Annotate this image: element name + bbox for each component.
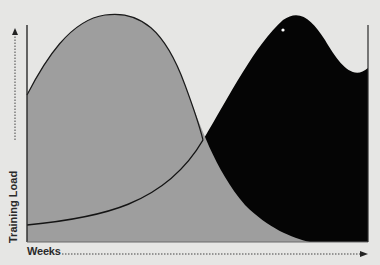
highlight-dot: [281, 28, 284, 31]
x-arrowhead-icon: [360, 251, 368, 257]
y-arrowhead-icon: [12, 28, 18, 35]
y-axis-label: Training Load: [7, 171, 19, 243]
training-load-chart: [0, 0, 380, 265]
x-axis-label: Weeks: [27, 245, 61, 257]
